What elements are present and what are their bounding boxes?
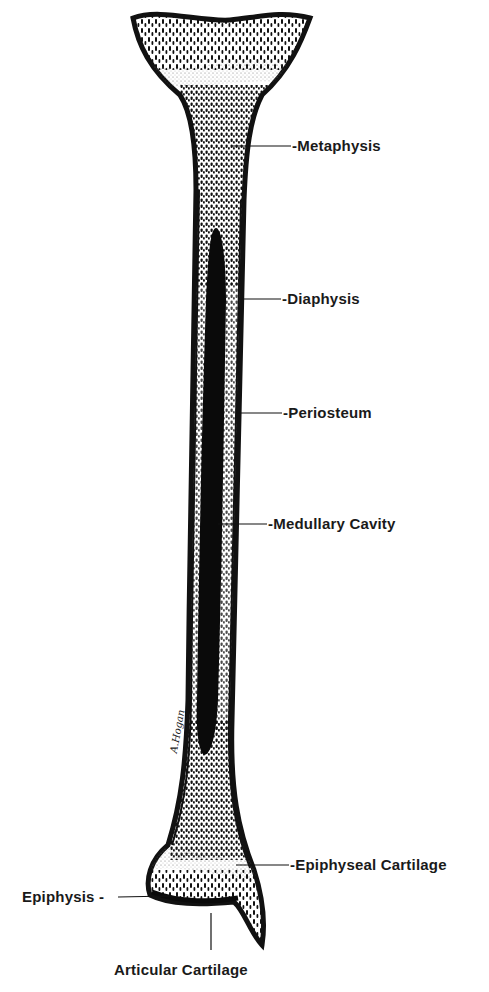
label-epiphysis: Epiphysis - [22, 888, 104, 906]
bone-illustration [120, 10, 320, 950]
bone-diagram [0, 0, 489, 992]
label-diaphysis: -Diaphysis [282, 290, 360, 308]
label-metaphysis: -Metaphysis [292, 137, 381, 155]
label-medullary-cavity: -Medullary Cavity [268, 515, 396, 533]
label-articular-cartilage: Articular Cartilage [114, 961, 248, 979]
label-periosteum: -Periosteum [283, 404, 372, 422]
label-epiphyseal-cartilage: -Epiphyseal Cartilage [290, 856, 447, 874]
lower-epiphysis-texture [140, 870, 270, 950]
